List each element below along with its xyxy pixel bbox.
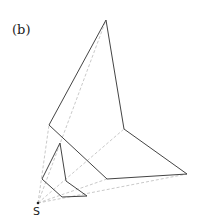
source-point-label: S [33, 205, 40, 218]
small-polygon [42, 143, 87, 197]
projection-diagram [0, 0, 199, 219]
large-polygon [49, 20, 187, 179]
source-point [37, 202, 40, 205]
